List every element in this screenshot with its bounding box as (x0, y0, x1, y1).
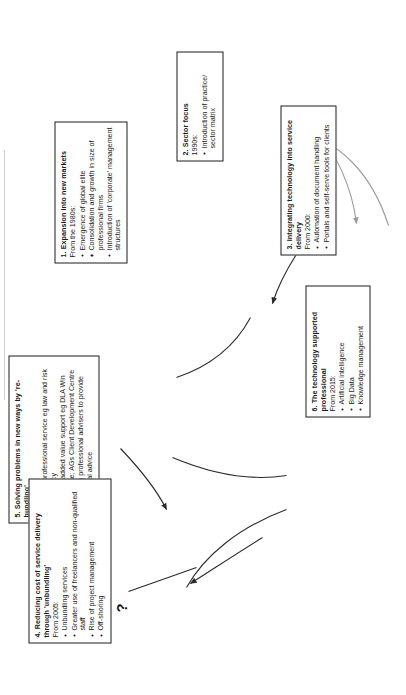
connector-4-to-5 (120, 448, 166, 509)
box-4-item: Off-shoring (96, 484, 105, 637)
box-2-item: Introduction of practice/ sector matrix (200, 57, 217, 155)
box-3-date: From 2000: (303, 111, 312, 249)
box-2-title: 2. Sector focus (181, 57, 190, 155)
box-2-date: 1990s: (190, 57, 199, 155)
box-4-item: Unbundling services (60, 484, 69, 637)
connector-trend-tail (186, 509, 286, 587)
question-mark: ? (112, 603, 129, 612)
diagram-stage: ? 5. Solving problems in new ways by 're… (0, 0, 406, 695)
box-1-items: Emergence of global elite Consolidation … (78, 127, 122, 257)
box-1-expansion-new-markets[interactable]: 1. Expansion into new markets From the 1… (54, 121, 127, 263)
box-6-item: Knowledge management (356, 291, 365, 411)
connector-5-to-6 (172, 457, 286, 477)
box-1-date: From the 1980s: (68, 127, 77, 257)
box-3-integrating-technology[interactable]: 3. Integrating technology into service d… (280, 105, 336, 255)
box-4-item: Rise of project management (87, 484, 96, 637)
box-4-item: Greater use of freelancers and non-quali… (70, 484, 87, 637)
box-1-item: Introduction of 'corporate' management s… (105, 127, 122, 257)
box-1-item: Consolidation and growth in size of prof… (87, 127, 104, 257)
box-6-item: Big Data (347, 291, 356, 411)
box-4-reducing-cost[interactable]: 4. Reducing cost of service delivery thr… (28, 478, 111, 643)
box-4-items: Unbundling services Greater use of freel… (60, 484, 105, 637)
box-2-items: Introduction of practice/ sector matrix (200, 57, 217, 155)
box-6-item: Artificial intelligence (337, 291, 346, 411)
box-1-item: Emergence of global elite (78, 127, 87, 257)
box-6-items: Artificial intelligence Big Data Knowled… (337, 291, 364, 411)
box-4-date: From 2005: (51, 484, 60, 637)
box-3-item: Automation of document handling (312, 111, 321, 249)
box-1-title: 1. Expansion into new markets (59, 127, 68, 257)
box-2-sector-focus[interactable]: 2. Sector focus 1990s: Introduction of p… (176, 51, 223, 161)
box-6-technology-supported-professional[interactable]: 6. The technology supported professional… (305, 285, 370, 417)
box-6-title: 6. The technology supported professional (310, 291, 327, 411)
box-3-items: Automation of document handling Portals … (312, 111, 330, 249)
box-6-date: From 2015: (328, 291, 337, 411)
box-3-title: 3. Integrating technology into service d… (285, 111, 302, 249)
box-3-item: Portals and self-serve tools for clients (322, 111, 331, 249)
question-stem (128, 567, 196, 591)
connector-3-to-5 (176, 317, 250, 377)
connector-6-to-question (190, 537, 262, 583)
box-4-title: 4. Reducing cost of service delivery thr… (33, 484, 50, 637)
diagram-canvas: ? 5. Solving problems in new ways by 're… (0, 0, 406, 695)
